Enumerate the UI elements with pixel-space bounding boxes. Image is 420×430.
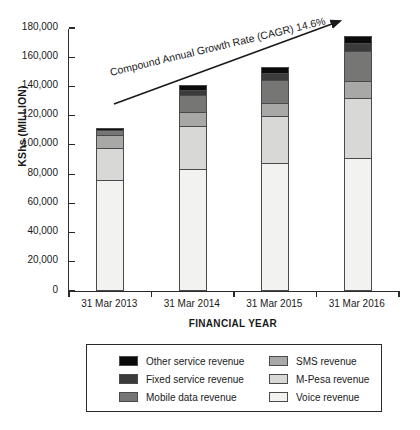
bar-segment-sms-revenue[interactable] <box>261 103 289 116</box>
bar-segment-mobile-data-revenue[interactable] <box>261 80 289 103</box>
bar-31-mar-2013[interactable] <box>96 128 124 291</box>
y-tick-label: 100,000 <box>22 137 58 148</box>
y-tick-label: 160,000 <box>22 50 58 61</box>
bar-segment-fixed-service-revenue[interactable] <box>261 73 289 80</box>
bar-segment-m-pesa-revenue[interactable] <box>96 148 124 180</box>
legend-swatch-icon <box>269 374 288 384</box>
x-axis-tick <box>233 291 234 297</box>
legend-label: Voice revenue <box>296 392 359 403</box>
bar-segment-mobile-data-revenue[interactable] <box>179 95 207 112</box>
y-tick-label: 140,000 <box>22 79 58 90</box>
y-tick-label: 120,000 <box>22 108 58 119</box>
y-tick-mark <box>69 290 75 291</box>
legend-item-voice-revenue[interactable]: Voice revenue <box>269 388 415 406</box>
bar-31-mar-2015[interactable] <box>261 67 289 291</box>
bar-segment-mobile-data-revenue[interactable] <box>344 51 372 81</box>
x-axis-label: 31 Mar 2016 <box>312 298 402 309</box>
bar-segment-m-pesa-revenue[interactable] <box>261 116 289 163</box>
legend-swatch-icon <box>119 356 138 366</box>
x-axis-tick <box>68 291 69 297</box>
plot-area: 020,00040,00060,00080,000100,000120,0001… <box>68 29 398 292</box>
x-axis-tick <box>151 291 152 297</box>
revenue-stacked-bar-chart: KShs (MILLION) 020,00040,00060,00080,000… <box>0 0 420 430</box>
y-tick-mark <box>69 115 75 116</box>
legend-label: M-Pesa revenue <box>296 374 369 385</box>
bar-segment-voice-revenue[interactable] <box>179 169 207 291</box>
legend-swatch-icon <box>119 392 138 402</box>
legend-swatch-icon <box>269 356 288 366</box>
x-axis-tick <box>398 291 399 297</box>
y-tick-mark <box>69 203 75 204</box>
x-axis-tick <box>316 291 317 297</box>
y-tick-label: 80,000 <box>27 167 58 178</box>
x-axis-label: 31 Mar 2015 <box>229 298 319 309</box>
legend-label: Mobile data revenue <box>146 392 237 403</box>
y-tick-label: 0 <box>52 284 58 295</box>
legend-grid: Other service revenueSMS revenueFixed se… <box>87 352 381 406</box>
legend-swatch-icon <box>269 392 288 402</box>
bar-31-mar-2014[interactable] <box>179 85 207 291</box>
legend-label: SMS revenue <box>296 356 357 367</box>
y-tick-label: 180,000 <box>22 21 58 32</box>
bar-segment-voice-revenue[interactable] <box>96 180 124 291</box>
y-tick-mark <box>69 86 75 87</box>
y-tick-label: 40,000 <box>27 225 58 236</box>
chart-legend: Other service revenueSMS revenueFixed se… <box>86 344 382 412</box>
legend-item-other-service-revenue[interactable]: Other service revenue <box>119 352 269 370</box>
y-tick-mark <box>69 261 75 262</box>
x-axis-label: 31 Mar 2014 <box>147 298 237 309</box>
legend-item-m-pesa-revenue[interactable]: M-Pesa revenue <box>269 370 415 388</box>
legend-label: Other service revenue <box>146 356 244 367</box>
y-tick-mark <box>69 27 75 28</box>
bar-segment-fixed-service-revenue[interactable] <box>344 43 372 51</box>
legend-label: Fixed service revenue <box>146 374 244 385</box>
bar-31-mar-2016[interactable] <box>344 36 372 291</box>
y-tick-mark <box>69 232 75 233</box>
y-tick-mark <box>69 57 75 58</box>
bar-segment-m-pesa-revenue[interactable] <box>179 126 207 169</box>
y-tick-label: 60,000 <box>27 196 58 207</box>
bar-segment-m-pesa-revenue[interactable] <box>344 98 372 158</box>
legend-item-fixed-service-revenue[interactable]: Fixed service revenue <box>119 370 269 388</box>
legend-item-mobile-data-revenue[interactable]: Mobile data revenue <box>119 388 269 406</box>
y-axis-title: KShs (MILLION) <box>16 46 28 206</box>
bar-segment-sms-revenue[interactable] <box>179 112 207 126</box>
bar-segment-other-service-revenue[interactable] <box>344 36 372 43</box>
bar-segment-voice-revenue[interactable] <box>344 158 372 291</box>
legend-swatch-icon <box>119 374 138 384</box>
bar-segment-sms-revenue[interactable] <box>96 135 124 148</box>
y-tick-mark <box>69 144 75 145</box>
bar-segment-sms-revenue[interactable] <box>344 81 372 98</box>
bar-segment-voice-revenue[interactable] <box>261 163 289 291</box>
y-tick-mark <box>69 174 75 175</box>
y-tick-label: 20,000 <box>27 254 58 265</box>
x-axis-label: 31 Mar 2013 <box>64 298 154 309</box>
legend-item-sms-revenue[interactable]: SMS revenue <box>269 352 415 370</box>
x-axis-title: FINANCIAL YEAR <box>68 318 398 329</box>
